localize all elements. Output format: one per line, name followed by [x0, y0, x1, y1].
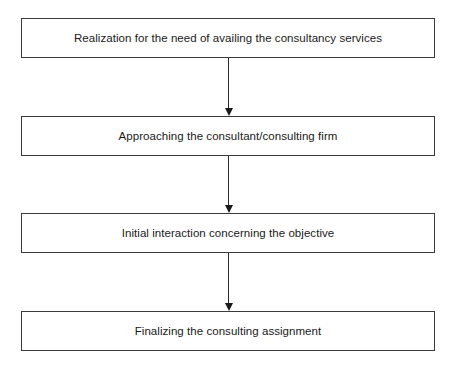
step-1-box: Realization for the need of availing the…: [21, 18, 435, 58]
step-2-label: Approaching the consultant/consulting fi…: [119, 130, 338, 142]
step-4-label: Finalizing the consulting assignment: [135, 325, 322, 337]
step-2-box: Approaching the consultant/consulting fi…: [21, 116, 435, 156]
arrow-down-icon: [225, 108, 233, 116]
arrow-down-icon: [225, 303, 233, 311]
arrow-down-icon: [225, 205, 233, 213]
connector-line-1: [228, 58, 229, 110]
step-3-box: Initial interaction concerning the objec…: [21, 213, 435, 253]
step-1-label: Realization for the need of availing the…: [74, 32, 382, 44]
connector-line-2: [228, 156, 229, 207]
step-3-label: Initial interaction concerning the objec…: [122, 227, 335, 239]
connector-line-3: [228, 253, 229, 305]
step-4-box: Finalizing the consulting assignment: [21, 311, 435, 351]
